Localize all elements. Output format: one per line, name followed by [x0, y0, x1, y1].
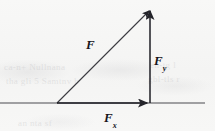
horizontal-label-base: F [104, 110, 113, 125]
horizontal-component-label: Fx [104, 109, 117, 128]
force-vector-diagram: ca-n+ Nullnana tha gli 5 Samtnv b en-tg … [0, 0, 215, 131]
horizontal-label-subscript: x [113, 121, 117, 130]
resultant-label-base: F [86, 37, 95, 52]
vertical-label-base: F [154, 53, 163, 68]
resultant-vector-label: F [86, 36, 95, 52]
vertical-label-subscript: y [163, 64, 167, 73]
vertical-component-label: Fy [154, 52, 166, 71]
resultant-vector-arrow [57, 11, 149, 103]
